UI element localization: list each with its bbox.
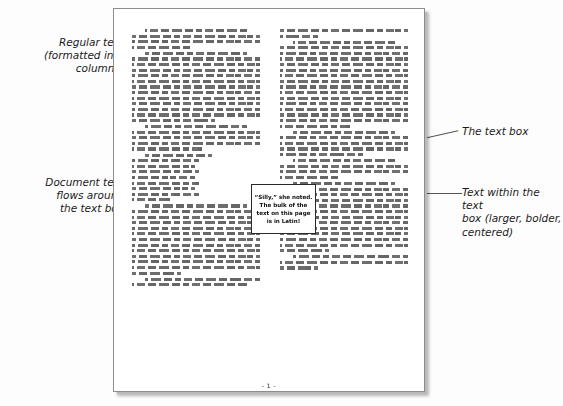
- text-line: [132, 159, 199, 162]
- text-line: [280, 91, 408, 94]
- page-content-area: “Silly,” she noted. The bulk of the text…: [132, 29, 406, 373]
- text-line: [132, 187, 195, 190]
- text-line: [132, 244, 260, 247]
- text-line: [280, 165, 408, 168]
- paragraph: [132, 125, 260, 150]
- text-line: [132, 283, 247, 286]
- text-line: [280, 142, 408, 145]
- text-line: [132, 227, 260, 230]
- text-line: [280, 69, 408, 72]
- text-line: [132, 198, 170, 201]
- screenshot-canvas: Regular text (formatted into columns) Do…: [0, 0, 563, 406]
- text-line: [132, 193, 199, 196]
- text-line: [280, 147, 408, 150]
- text-line: [132, 176, 195, 179]
- text-line: [145, 278, 260, 281]
- text-line: [280, 125, 350, 128]
- text-line: [132, 74, 260, 77]
- text-line: [132, 165, 195, 168]
- text-line: [132, 91, 260, 94]
- text-box[interactable]: “Silly,” she noted. The bulk of the text…: [251, 184, 316, 234]
- text-line: [280, 261, 408, 264]
- text-line: [132, 255, 260, 258]
- text-line: [132, 85, 260, 88]
- text-line: [132, 260, 260, 263]
- text-line: [132, 119, 215, 122]
- text-box-content: “Silly,” she noted. The bulk of the text…: [252, 193, 315, 226]
- text-line: [132, 238, 260, 241]
- text-line: [145, 154, 212, 157]
- text-line: [280, 102, 408, 105]
- page-number-footer: - 1 -: [114, 382, 424, 389]
- text-line: [280, 85, 408, 88]
- text-line: [132, 182, 199, 185]
- text-line: [280, 170, 408, 173]
- paragraph-wrapped: [132, 154, 260, 202]
- text-line: [132, 40, 260, 43]
- text-line: [132, 210, 260, 213]
- paragraph: [280, 255, 408, 269]
- text-line: [280, 29, 408, 32]
- text-line: [280, 119, 408, 122]
- annotation-regular-text: Regular text (formatted into columns): [4, 36, 124, 76]
- paragraph: [280, 159, 408, 179]
- text-line: [280, 176, 338, 179]
- text-line: [132, 142, 260, 145]
- text-line: [132, 46, 190, 49]
- text-line: [132, 136, 260, 139]
- paragraph: [132, 29, 260, 49]
- paragraph: [132, 278, 260, 287]
- text-line: [280, 35, 318, 38]
- paragraph: [280, 29, 408, 38]
- text-line: [145, 52, 247, 55]
- text-line: [132, 35, 260, 38]
- text-line: [132, 113, 260, 116]
- text-line: [280, 57, 408, 60]
- text-line: [132, 131, 260, 134]
- text-line: [132, 102, 260, 105]
- text-column-right: [280, 29, 408, 273]
- text-line: [280, 136, 408, 139]
- text-line: [280, 113, 408, 116]
- text-line: [293, 159, 395, 162]
- text-line: [132, 69, 260, 72]
- text-line: [293, 255, 408, 258]
- text-line: [132, 221, 260, 224]
- document-page[interactable]: “Silly,” she noted. The bulk of the text…: [113, 8, 425, 392]
- text-line: [132, 232, 260, 235]
- text-line: [280, 63, 408, 66]
- text-line: [132, 272, 181, 275]
- text-line: [132, 57, 260, 60]
- text-line: [132, 108, 260, 111]
- text-line: [132, 249, 260, 252]
- text-line: [280, 46, 408, 49]
- text-line: [280, 244, 408, 247]
- text-line: [132, 80, 260, 83]
- text-line: [280, 52, 408, 55]
- text-line: [145, 29, 247, 32]
- annotation-flow-around: Document text flows around the text box: [4, 176, 124, 216]
- text-line: [280, 74, 408, 77]
- paragraph: [280, 41, 408, 128]
- text-line: [280, 266, 318, 269]
- text-line: [280, 108, 408, 111]
- annotation-text-within-box: Text within the text box (larger, bolder…: [462, 186, 562, 239]
- paragraph: [132, 204, 260, 274]
- text-line: [293, 131, 395, 134]
- text-line: [293, 41, 395, 44]
- text-line: [280, 238, 408, 241]
- text-line: [132, 266, 260, 269]
- text-line: [132, 147, 202, 150]
- text-line: [132, 97, 260, 100]
- paragraph: [132, 52, 260, 122]
- text-line: [132, 63, 260, 66]
- text-line: [280, 249, 329, 252]
- text-line: [132, 216, 260, 219]
- text-column-left: [132, 29, 260, 289]
- text-line: [145, 204, 247, 207]
- annotation-the-text-box: The text box: [462, 125, 562, 138]
- text-line: [132, 170, 199, 173]
- text-line: [280, 153, 363, 156]
- text-line: [145, 125, 247, 128]
- text-line: [280, 97, 408, 100]
